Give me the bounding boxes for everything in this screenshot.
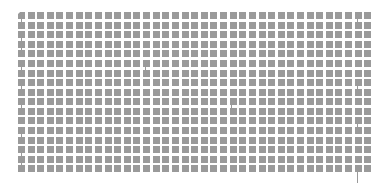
word-block [37, 137, 44, 144]
word-block [162, 31, 169, 38]
word-block [230, 12, 237, 19]
word-block [364, 60, 371, 67]
word-block [287, 70, 294, 77]
word-block [297, 156, 304, 163]
word-block [153, 12, 160, 19]
word-block [124, 31, 131, 38]
word-block [364, 70, 371, 77]
word-block [249, 165, 256, 172]
word-block [268, 98, 275, 105]
word-block [307, 98, 314, 105]
word-block [249, 60, 256, 67]
word-block [249, 127, 256, 134]
word-block [210, 98, 217, 105]
word-block [124, 89, 131, 96]
word-block [230, 165, 237, 172]
word-block [114, 41, 121, 48]
word-block [95, 98, 102, 105]
word-block [230, 127, 237, 134]
word-block [76, 60, 83, 67]
word-block [191, 156, 198, 163]
word-block [345, 165, 352, 172]
text-descender-mark [21, 86, 22, 95]
word-block [114, 137, 121, 144]
word-block [182, 60, 189, 67]
word-block [143, 89, 150, 96]
word-block [172, 31, 179, 38]
word-block [230, 31, 237, 38]
word-block [66, 89, 73, 96]
word-block [239, 41, 246, 48]
word-block [95, 60, 102, 67]
word-block [316, 41, 323, 48]
word-block [37, 12, 44, 19]
word-block [220, 137, 227, 144]
word-block [287, 50, 294, 57]
word-block [47, 146, 54, 153]
word-block [56, 156, 63, 163]
word-block [76, 137, 83, 144]
word-block [326, 146, 333, 153]
word-block [66, 41, 73, 48]
word-block [230, 50, 237, 57]
word-block [355, 70, 362, 77]
word-block [105, 165, 112, 172]
word-block [191, 137, 198, 144]
word-block [143, 60, 150, 67]
word-block [316, 117, 323, 124]
word-block [268, 89, 275, 96]
word-block [278, 98, 285, 105]
word-block [335, 127, 342, 134]
text-descender-mark [21, 48, 22, 57]
word-block [56, 31, 63, 38]
word-block [133, 156, 140, 163]
word-block [133, 50, 140, 57]
word-block [114, 127, 121, 134]
word-block [249, 156, 256, 163]
word-block [143, 79, 150, 86]
word-block [182, 12, 189, 19]
word-block [66, 127, 73, 134]
word-block [114, 89, 121, 96]
word-block [133, 12, 140, 19]
word-block [153, 70, 160, 77]
word-block [76, 70, 83, 77]
word-block [47, 79, 54, 86]
word-block [297, 70, 304, 77]
word-block [364, 117, 371, 124]
word-block [105, 156, 112, 163]
word-block [56, 127, 63, 134]
word-block [220, 60, 227, 67]
word-block [210, 156, 217, 163]
word-block [182, 79, 189, 86]
word-block [345, 70, 352, 77]
word-block [37, 50, 44, 57]
word-block [95, 127, 102, 134]
word-block [66, 50, 73, 57]
word-block [249, 41, 256, 48]
word-block [66, 31, 73, 38]
word-block [364, 137, 371, 144]
word-block [162, 117, 169, 124]
word-block [239, 117, 246, 124]
word-block [182, 165, 189, 172]
word-block [259, 108, 266, 115]
word-block [201, 12, 208, 19]
word-block [28, 156, 35, 163]
text-descender-mark [21, 134, 22, 143]
word-block [133, 89, 140, 96]
word-block [56, 60, 63, 67]
word-block [18, 146, 25, 153]
word-block [18, 12, 25, 19]
word-block [162, 22, 169, 29]
word-block [66, 79, 73, 86]
word-block [268, 12, 275, 19]
word-block [105, 79, 112, 86]
word-block [105, 31, 112, 38]
word-block [239, 156, 246, 163]
word-block [66, 108, 73, 115]
word-block [239, 165, 246, 172]
word-block [335, 41, 342, 48]
word-block [259, 50, 266, 57]
word-block [297, 98, 304, 105]
